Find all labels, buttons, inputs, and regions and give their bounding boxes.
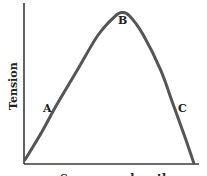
label-c: C — [178, 102, 187, 115]
label-a: A — [42, 102, 52, 115]
chart-canvas: A B C Tension Sarcomere length — [0, 0, 207, 176]
length-tension-chart: A B C Tension Sarcomere length — [0, 0, 207, 176]
x-axis-label: Sarcomere length — [60, 172, 170, 176]
tension-curve — [25, 13, 194, 163]
y-axis-label: Tension — [7, 62, 20, 110]
label-b: B — [118, 14, 127, 27]
